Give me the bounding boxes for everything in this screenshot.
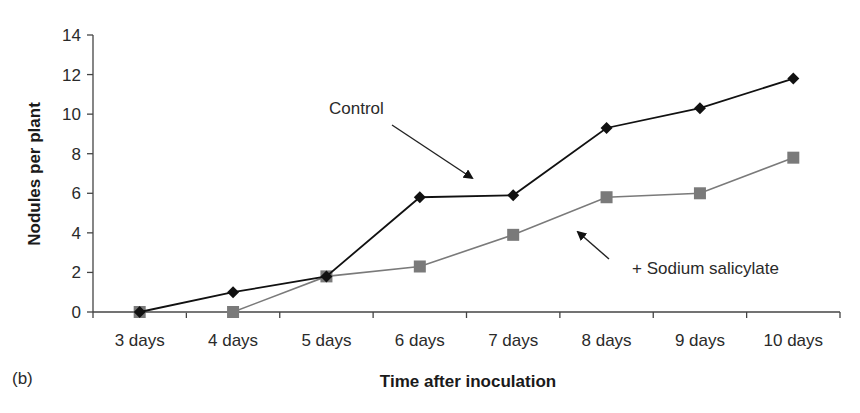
y-tick-label: 4 bbox=[72, 224, 81, 243]
square-marker bbox=[694, 187, 706, 199]
x-tick-label: 8 days bbox=[582, 331, 632, 350]
diamond-marker bbox=[694, 102, 706, 114]
arrow-icon bbox=[578, 232, 609, 259]
diamond-marker bbox=[227, 286, 239, 298]
square-marker bbox=[414, 260, 426, 272]
x-tick-label: 10 days bbox=[764, 331, 824, 350]
diamond-marker bbox=[601, 122, 613, 134]
panel-label: (b) bbox=[12, 369, 33, 388]
square-marker bbox=[227, 306, 239, 318]
y-tick-label: 0 bbox=[72, 303, 81, 322]
x-tick-label: 9 days bbox=[675, 331, 725, 350]
x-tick-label: 7 days bbox=[488, 331, 538, 350]
y-tick-label: 10 bbox=[62, 105, 81, 124]
x-axis: 3 days4 days5 days6 days7 days8 days9 da… bbox=[93, 312, 840, 350]
y-tick-label: 2 bbox=[72, 263, 81, 282]
y-tick-label: 8 bbox=[72, 145, 81, 164]
series-layer bbox=[134, 73, 800, 318]
salicylate-annotation: + Sodium salicylate bbox=[632, 259, 779, 278]
y-axis-title: Nodules per plant bbox=[25, 102, 44, 246]
x-tick-label: 4 days bbox=[208, 331, 258, 350]
x-axis-title: Time after inoculation bbox=[380, 372, 556, 391]
control-annotation: Control bbox=[329, 99, 384, 118]
line-chart: 02468101214 3 days4 days5 days6 days7 da… bbox=[0, 0, 860, 413]
diamond-marker bbox=[507, 189, 519, 201]
arrow-icon bbox=[392, 125, 472, 178]
y-tick-label: 12 bbox=[62, 66, 81, 85]
diamond-marker bbox=[787, 73, 799, 85]
x-tick-label: 3 days bbox=[115, 331, 165, 350]
x-tick-label: 6 days bbox=[395, 331, 445, 350]
y-axis: 02468101214 bbox=[62, 26, 93, 322]
square-marker bbox=[601, 191, 613, 203]
y-tick-label: 14 bbox=[62, 26, 81, 45]
square-marker bbox=[507, 229, 519, 241]
square-marker bbox=[787, 152, 799, 164]
y-tick-label: 6 bbox=[72, 184, 81, 203]
x-tick-label: 5 days bbox=[301, 331, 351, 350]
